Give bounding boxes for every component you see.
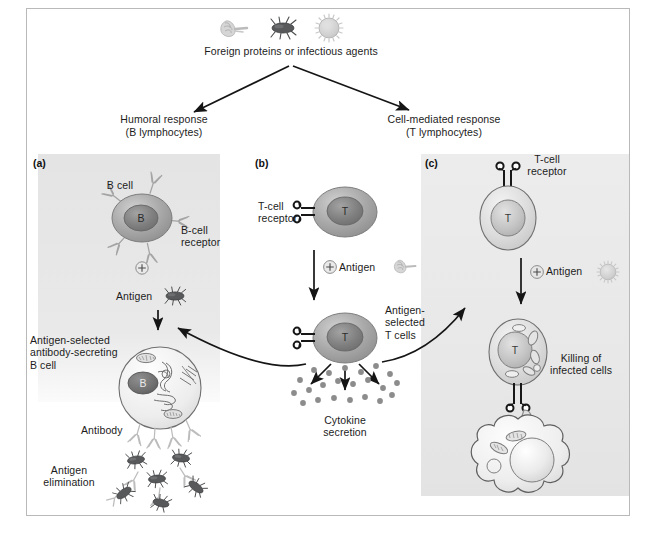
cytokine-secretion-label: Cytokinesecretion xyxy=(323,414,367,439)
cell-mediated-response-label-line1: Cell-mediated response xyxy=(387,113,500,125)
immune-response-figure: B B xyxy=(0,0,657,538)
t-cell-nucleus-letter: T xyxy=(342,205,349,217)
t-cell-naive-b: T xyxy=(294,187,377,237)
mitochondrion xyxy=(164,410,182,419)
svg-text:T: T xyxy=(505,212,512,224)
humoral-response-label-line1: Humoral response xyxy=(120,113,207,125)
plasma-cell-nucleus-letter: B xyxy=(139,377,146,389)
panel-a-label: (a) xyxy=(33,157,46,169)
antigen-selected-t-cells-label: Antigen-selectedT cells xyxy=(385,304,425,341)
svg-text:T: T xyxy=(512,344,519,356)
protein-coil-icon-b xyxy=(394,260,415,273)
plus-circle-c xyxy=(531,266,544,279)
antigen-elimination-cluster xyxy=(107,448,209,513)
infected-cell xyxy=(471,415,569,492)
mitochondrion xyxy=(137,353,156,362)
t-cell-receptor-icon xyxy=(294,328,315,349)
b-cell-label: B cell xyxy=(107,179,133,191)
b-cell-nucleus-letter: B xyxy=(137,212,144,224)
figure-top-title: Foreign proteins or infectious agents xyxy=(204,45,378,57)
humoral-response-label-line2: (B lymphocytes) xyxy=(126,126,203,138)
plus-circle-a xyxy=(136,262,148,274)
plasma-cell: B xyxy=(119,347,201,449)
branch-arrows xyxy=(194,66,409,112)
panel-b-label: (b) xyxy=(255,157,268,169)
killing-infected-cells-label: Killing ofinfected cells xyxy=(550,352,612,377)
antigen-label-b: Antigen xyxy=(339,261,375,273)
virus-icon xyxy=(315,14,343,42)
virus-icon-c xyxy=(597,261,619,283)
bacterium-icon xyxy=(271,17,296,39)
t-cell-activated-b: T xyxy=(294,313,377,363)
panel-c-label: (c) xyxy=(425,157,438,169)
t-cell-receptor-label-c: T-cellreceptor xyxy=(527,153,566,178)
t-cell-receptor-label-b: T-cellreceptor xyxy=(258,200,297,225)
antigen-selected-b-cell-label: Antigen-selectedantibody-secretingB cell xyxy=(30,334,118,371)
antigen-label-c: Antigen xyxy=(546,265,582,277)
antigen-label-a: Antigen xyxy=(116,290,152,302)
cell-mediated-response-label-line2: (T lymphocytes) xyxy=(406,126,482,138)
protein-coil-icon xyxy=(221,21,247,37)
antibody-label: Antibody xyxy=(81,424,123,436)
svg-text:T: T xyxy=(342,331,349,343)
b-cell-receptor-label: B-cellreceptor xyxy=(181,224,220,249)
antigen-elimination-label: Antigenelimination xyxy=(43,464,94,489)
plus-circle-b xyxy=(324,261,337,274)
